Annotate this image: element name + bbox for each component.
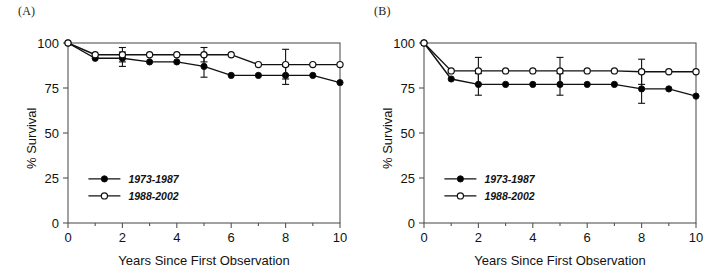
x-tick-label: 8	[638, 230, 645, 245]
data-point-marker	[639, 86, 645, 92]
data-point-marker	[255, 72, 261, 78]
y-tick-label: 75	[45, 81, 59, 96]
data-point-marker	[92, 52, 98, 58]
panel-b-plot: 025507510002468101973-19871988-2002	[356, 0, 712, 278]
data-point-marker	[174, 59, 180, 65]
data-point-marker	[584, 81, 590, 87]
data-point-marker	[611, 68, 617, 74]
panel-a-svg: 025507510002468101973-19871988-2002	[0, 0, 356, 278]
legend-entry[interactable]: 1973-1987	[88, 173, 179, 185]
data-point-marker	[639, 69, 645, 75]
legend-entry[interactable]: 1973-1987	[444, 173, 535, 185]
x-tick-label: 2	[475, 230, 482, 245]
data-point-marker	[503, 68, 509, 74]
data-point-marker	[310, 62, 316, 68]
survival-figure: (A) 025507510002468101973-19871988-2002 …	[0, 0, 712, 278]
x-tick-label: 6	[584, 230, 591, 245]
data-point-marker	[119, 52, 125, 58]
y-tick-label: 100	[393, 36, 415, 51]
data-point-marker	[228, 52, 234, 58]
panel-b-svg: 025507510002468101973-19871988-2002	[356, 0, 712, 278]
data-point-marker	[255, 62, 261, 68]
data-point-marker	[147, 52, 153, 58]
data-point-marker	[666, 69, 672, 75]
panel-a-y-axis-title: % Survival	[24, 108, 39, 169]
legend-marker-open-circle-icon	[457, 193, 463, 199]
data-point-marker	[666, 86, 672, 92]
legend-marker-filled-circle-icon	[101, 176, 107, 182]
y-tick-label: 100	[37, 36, 59, 51]
x-tick-label: 0	[420, 230, 427, 245]
legend-label: 1973-1987	[128, 173, 179, 185]
data-point-marker	[584, 68, 590, 74]
data-point-marker	[283, 62, 289, 68]
panel-b: (B) 025507510002468101973-19871988-2002 …	[356, 0, 712, 278]
y-tick-label: 50	[45, 126, 59, 141]
legend-marker-filled-circle-icon	[457, 176, 463, 182]
data-point-marker	[65, 40, 71, 46]
x-tick-label: 10	[333, 230, 347, 245]
panel-a-x-axis-title: Years Since First Observation	[68, 253, 340, 268]
y-tick-label: 25	[401, 171, 415, 186]
x-tick-label: 0	[64, 230, 71, 245]
data-point-marker	[693, 69, 699, 75]
panel-a-plot: 025507510002468101973-19871988-2002	[0, 0, 356, 278]
data-point-marker	[448, 76, 454, 82]
legend-marker-open-circle-icon	[101, 193, 107, 199]
data-point-marker	[448, 68, 454, 74]
data-point-marker	[530, 68, 536, 74]
data-point-marker	[310, 72, 316, 78]
data-point-marker	[147, 59, 153, 65]
y-tick-label: 0	[52, 216, 59, 231]
data-point-marker	[475, 68, 481, 74]
legend-label: 1988-2002	[128, 190, 178, 202]
data-point-marker	[557, 68, 563, 74]
y-tick-label: 50	[401, 126, 415, 141]
data-point-marker	[337, 80, 343, 86]
x-tick-label: 4	[529, 230, 536, 245]
data-point-marker	[693, 93, 699, 99]
data-point-marker	[611, 81, 617, 87]
y-tick-label: 25	[45, 171, 59, 186]
legend-label: 1988-2002	[484, 190, 534, 202]
x-tick-label: 6	[228, 230, 235, 245]
legend-entry[interactable]: 1988-2002	[88, 190, 178, 202]
data-point-marker	[337, 62, 343, 68]
data-point-marker	[201, 63, 207, 69]
y-tick-label: 0	[408, 216, 415, 231]
y-tick-label: 75	[401, 81, 415, 96]
data-point-marker	[421, 40, 427, 46]
data-point-marker	[201, 52, 207, 58]
data-point-marker	[174, 52, 180, 58]
panel-a: (A) 025507510002468101973-19871988-2002 …	[0, 0, 356, 278]
x-tick-label: 2	[119, 230, 126, 245]
x-tick-label: 10	[689, 230, 703, 245]
x-tick-label: 8	[282, 230, 289, 245]
data-point-marker	[503, 81, 509, 87]
legend-label: 1973-1987	[484, 173, 535, 185]
data-point-marker	[530, 81, 536, 87]
panel-b-x-axis-title: Years Since First Observation	[424, 253, 696, 268]
data-point-marker	[228, 72, 234, 78]
panel-b-y-axis-title: % Survival	[380, 108, 395, 169]
legend-entry[interactable]: 1988-2002	[444, 190, 534, 202]
x-tick-label: 4	[173, 230, 180, 245]
